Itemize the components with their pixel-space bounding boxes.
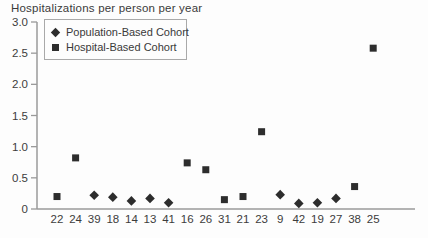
legend-label-population: Population-Based Cohort: [66, 26, 189, 38]
x-tick-label: 38: [348, 213, 361, 225]
marker-population-diamond: [313, 198, 323, 208]
x-tick-label: 19: [311, 213, 324, 225]
legend: Population-Based Cohort Hospital-Based C…: [44, 19, 187, 60]
marker-population-diamond: [331, 194, 341, 204]
x-tick-label: 25: [367, 213, 380, 225]
marker-population-diamond: [145, 194, 155, 204]
marker-population-diamond: [89, 190, 99, 200]
marker-population-diamond: [294, 199, 304, 209]
legend-item-population: Population-Based Cohort: [52, 25, 180, 39]
x-tick-label: 39: [88, 213, 101, 225]
diamond-icon: [51, 27, 60, 36]
square-icon: [52, 44, 59, 51]
x-tick-label: 24: [69, 213, 82, 225]
marker-hospital-square: [240, 193, 247, 200]
marker-hospital-square: [202, 166, 209, 173]
y-tick-label: 2.5: [12, 47, 28, 59]
y-tick-label: 2.0: [12, 78, 28, 90]
marker-population-diamond: [108, 192, 118, 202]
y-tick-label: 0: [22, 203, 28, 215]
x-tick-label: 31: [218, 213, 231, 225]
hospitalizations-chart: Hospitalizations per person per year 3.0…: [0, 0, 428, 238]
marker-population-diamond: [164, 198, 174, 208]
marker-hospital-square: [370, 45, 377, 52]
marker-hospital-square: [351, 183, 358, 190]
marker-hospital-square: [54, 193, 61, 200]
x-tick-label: 16: [181, 213, 194, 225]
x-tick-label: 41: [162, 213, 175, 225]
x-tick-label: 42: [292, 213, 305, 225]
marker-population-diamond: [275, 190, 285, 200]
x-tick-label: 22: [51, 213, 64, 225]
y-tick-label: 1.5: [12, 110, 28, 122]
x-tick-label: 23: [255, 213, 268, 225]
y-tick-label: 1.0: [12, 141, 28, 153]
y-tick-label: 0.5: [12, 172, 28, 184]
marker-hospital-square: [184, 159, 191, 166]
marker-population-diamond: [127, 196, 137, 206]
y-tick-label: 3.0: [12, 16, 28, 28]
x-tick-label: 18: [106, 213, 119, 225]
marker-hospital-square: [221, 196, 228, 203]
x-tick-label: 9: [277, 213, 283, 225]
legend-item-hospital: Hospital-Based Cohort: [52, 40, 180, 54]
x-tick-label: 21: [237, 213, 250, 225]
x-tick-label: 26: [199, 213, 212, 225]
x-tick-label: 14: [125, 213, 138, 225]
marker-hospital-square: [72, 154, 79, 161]
x-tick-label: 27: [330, 213, 343, 225]
x-tick-label: 13: [144, 213, 157, 225]
legend-label-hospital: Hospital-Based Cohort: [66, 41, 177, 53]
marker-hospital-square: [258, 128, 265, 135]
